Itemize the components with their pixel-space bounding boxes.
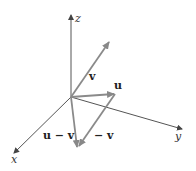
vector-u-label: u <box>114 79 122 92</box>
vector-v-label: v <box>88 70 96 83</box>
z-axis-label: z <box>74 12 81 25</box>
x-axis <box>14 97 71 153</box>
vector-u <box>71 94 114 97</box>
vector-neg-v-label: − v <box>94 129 114 142</box>
y-axis <box>71 97 182 129</box>
x-axis-label: x <box>11 153 18 166</box>
vector-u-minus-v-label: u − v <box>43 129 75 142</box>
y-axis-label: y <box>174 130 182 143</box>
vector-diagram: z x y v u u − v − v <box>0 0 196 171</box>
